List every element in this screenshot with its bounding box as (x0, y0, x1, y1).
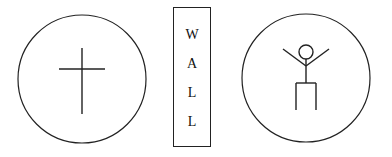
wall-letter: L (188, 115, 197, 129)
stick-figure-icon (283, 45, 329, 110)
cross-icon (59, 48, 105, 114)
wall-letter: A (187, 57, 197, 71)
wall-letter: L (188, 86, 197, 100)
right-circle (242, 14, 370, 142)
left-circle (18, 15, 146, 143)
wall-letter: W (185, 28, 198, 42)
wall-box: W A L L (173, 7, 211, 147)
